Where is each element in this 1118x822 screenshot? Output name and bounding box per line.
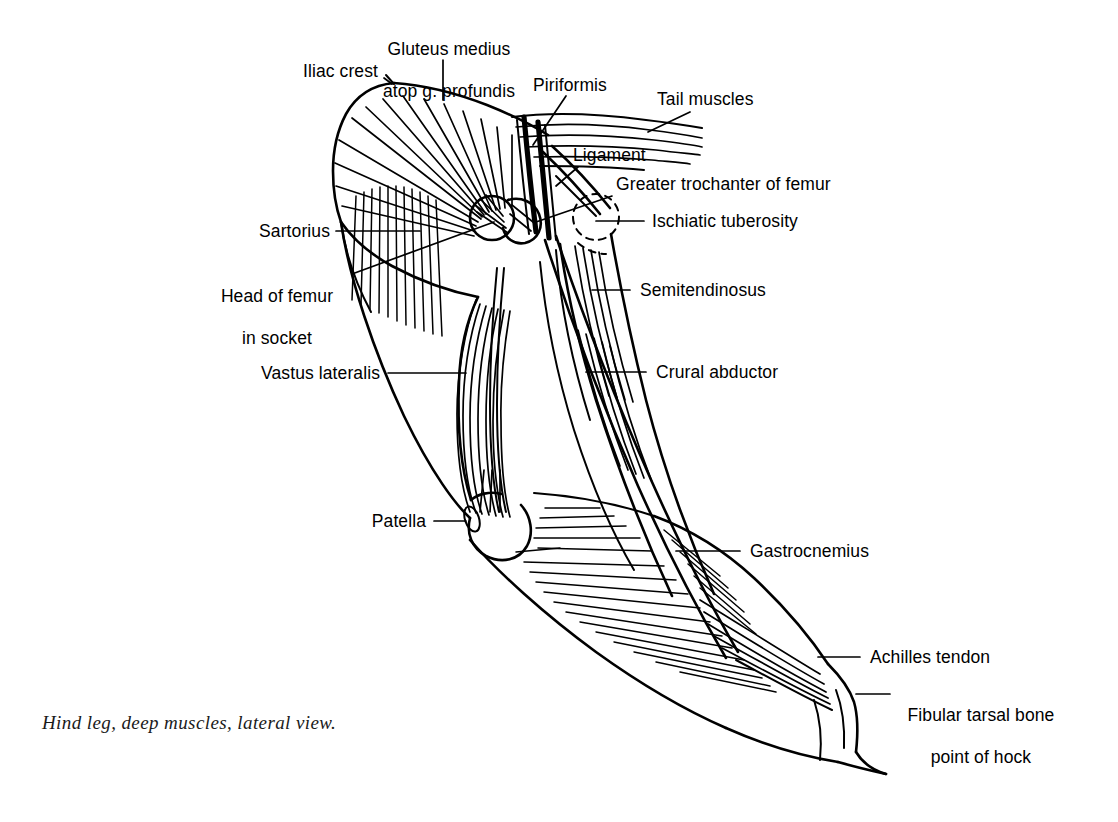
label-gastrocnemius: Gastrocnemius [750, 541, 869, 562]
label-gluteus-medius-line1: Gluteus medius [387, 39, 510, 59]
figure-caption: Hind leg, deep muscles, lateral view. [42, 712, 336, 734]
anatomy-figure: Iliac crest Gluteus medius atop g. profu… [0, 0, 1118, 822]
label-piriformis: Piriformis [533, 75, 607, 96]
label-vastus-lateralis: Vastus lateralis [190, 363, 380, 384]
label-head-of-femur-line2: in socket [242, 328, 312, 348]
label-fibular-tarsal-bone: Fibular tarsal bone point of hock [860, 684, 1092, 768]
leader-head-of-femur [352, 222, 494, 274]
label-tail-muscles: Tail muscles [657, 89, 754, 110]
label-fibular-tarsal-bone-line1: Fibular tarsal bone [908, 705, 1055, 725]
label-patella: Patella [300, 511, 426, 532]
label-head-of-femur-in-socket: Head of femur in socket [196, 265, 348, 349]
label-sartorius: Sartorius [178, 221, 330, 242]
label-crural-abductor: Crural abductor [656, 362, 778, 383]
leader-greater-trochanter [536, 196, 612, 222]
label-achilles-tendon: Achilles tendon [870, 647, 990, 668]
leader-tail-muscles [648, 112, 690, 132]
label-semitendinosus: Semitendinosus [640, 280, 766, 301]
label-ligament: Ligament [573, 145, 646, 166]
label-gluteus-medius: Gluteus medius atop g. profundis [346, 18, 542, 102]
leader-ligament [556, 167, 578, 186]
label-head-of-femur-line1: Head of femur [221, 286, 333, 306]
label-gluteus-medius-line2: atop g. profundis [383, 81, 515, 101]
label-fibular-tarsal-bone-line2: point of hock [931, 747, 1032, 767]
label-greater-trochanter-of-femur: Greater trochanter of femur [616, 174, 831, 195]
leader-piriformis [533, 96, 566, 145]
label-ischiatic-tuberosity: Ischiatic tuberosity [652, 211, 798, 232]
